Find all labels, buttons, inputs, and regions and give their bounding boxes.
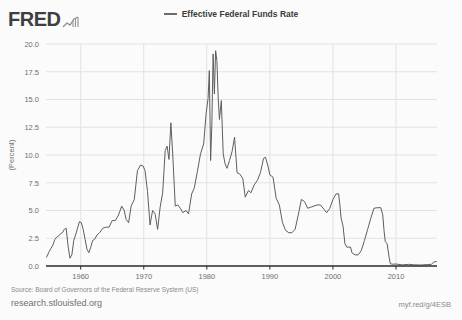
x-tick-label: 1980 [198,272,215,281]
series-line [47,51,437,265]
y-tick-label: 5.0 [29,206,39,215]
chart-legend: Effective Federal Funds Rate [0,9,462,19]
y-tick-label: 12.5 [24,123,39,132]
y-tick-label: 17.5 [24,68,39,77]
y-tick-label: 7.5 [29,179,39,188]
x-tick-label: 1960 [72,272,89,281]
fred-site-link[interactable]: research.stlouisfed.org [11,298,102,308]
series-lines [47,51,437,265]
axis-lines [46,266,437,270]
chart-plot-area: 0.02.55.07.510.012.515.017.520.0 1960197… [0,30,462,282]
x-tick-label: 1990 [262,272,279,281]
y-tick-label: 10.0 [24,151,39,160]
chart-footer: Source: Board of Governors of the Federa… [0,286,462,320]
chart-header: FRED Effective Federal Funds Rate [0,0,462,32]
legend-item[interactable]: Effective Federal Funds Rate [164,9,299,19]
y-tick-label: 20.0 [24,40,39,49]
y-tick-label: 0.0 [29,262,39,271]
y-axis-title: (Percent) [7,139,16,170]
x-tick-label: 2010 [388,272,405,281]
x-axis-tick-labels: 196019701980199020002010 [72,272,404,281]
y-axis-title-text: (Percent) [7,139,16,170]
short-link[interactable]: myf.red/g/4ESB [398,300,451,309]
legend-item-label: Effective Federal Funds Rate [182,9,299,19]
line-chart-svg: 0.02.55.07.510.012.515.017.520.0 1960197… [0,30,462,282]
fred-chart-card: FRED Effective Federal Funds Rate 0.02.5… [0,0,462,320]
y-axis-tick-labels: 0.02.55.07.510.012.515.017.520.0 [24,40,39,271]
x-tick-label: 2000 [325,272,342,281]
legend-color-swatch [164,13,177,15]
source-note: Source: Board of Governors of the Federa… [11,286,199,293]
grid-lines [46,44,437,266]
x-tick-label: 1970 [135,272,152,281]
y-tick-label: 2.5 [29,234,39,243]
y-tick-label: 15.0 [24,95,39,104]
